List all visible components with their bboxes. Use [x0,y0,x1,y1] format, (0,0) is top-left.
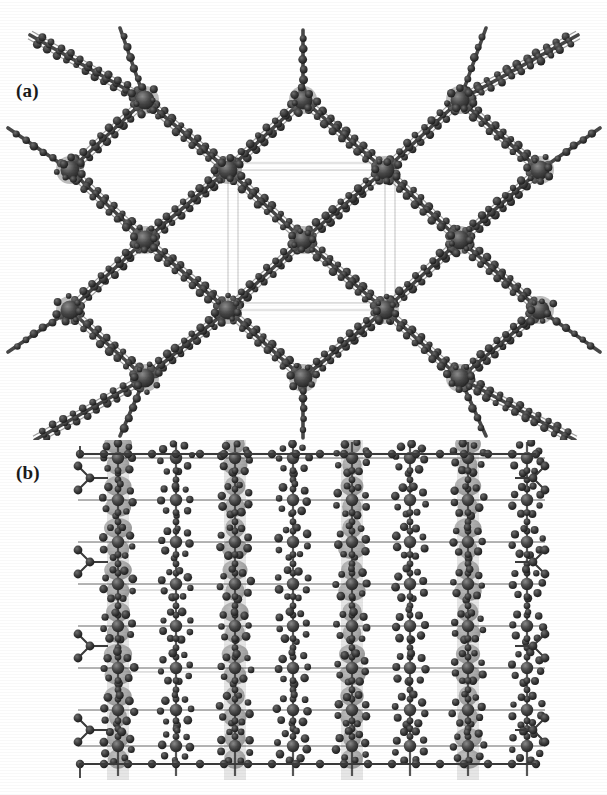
panel-a-graphic [0,0,607,440]
crystal-structure-figure: (a) [0,0,607,795]
panel-b: (b) [0,440,607,795]
panel-a: (a) [0,0,607,440]
panel-b-graphic [0,440,607,795]
